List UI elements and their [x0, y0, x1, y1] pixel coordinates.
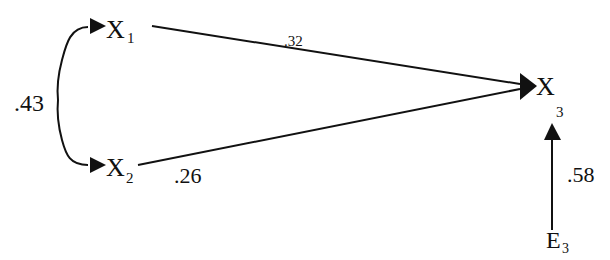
node-e3-label: E: [546, 227, 561, 253]
node-x3: X 3: [536, 72, 564, 120]
node-x3-label: X: [536, 72, 555, 101]
coef-e3-x3: .58: [567, 162, 595, 187]
node-e3: E 3: [546, 227, 569, 256]
coef-x2-x3: .26: [174, 163, 202, 188]
edge-x2-x3: [138, 89, 520, 165]
node-x3-sub: 3: [556, 104, 564, 120]
coef-x1-x3: .32: [284, 33, 303, 49]
node-x1-label: X: [106, 15, 125, 44]
node-x2: X 2: [106, 153, 134, 186]
node-x1-sub: 1: [127, 30, 135, 46]
node-e3-sub: 3: [562, 241, 569, 256]
arrowhead-to-x1-icon: [90, 18, 106, 34]
edge-x1-x3: [152, 26, 520, 84]
node-x2-label: X: [106, 153, 125, 182]
arrowhead-to-x3-icon: [520, 73, 537, 100]
path-diagram: .43 X 1 X 2 .32 .26 X 3 .58 E 3: [0, 0, 610, 260]
node-x2-sub: 2: [126, 170, 134, 186]
correlation-x1-x2: [58, 18, 106, 173]
arrowhead-to-x2-icon: [90, 157, 106, 173]
coef-x1-x2: .43: [14, 90, 44, 116]
correlation-curve: [58, 27, 88, 165]
arrowhead-e3-to-x3-icon: [544, 123, 561, 140]
node-x1: X 1: [106, 15, 135, 46]
